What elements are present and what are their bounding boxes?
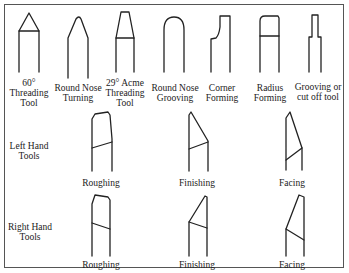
threading-60-tool-shape [19, 13, 39, 72]
row-label-left-hand-tools: Left Hand Tools [8, 141, 50, 161]
label-grooving-cutoff: Grooving or cut off tool [293, 82, 343, 102]
label-lh-facing: Facing [270, 178, 314, 188]
label-rh-roughing: Roughing [78, 260, 124, 270]
rh-finishing-tool-shape [189, 196, 207, 256]
lh-finishing-tool-shape [189, 112, 208, 171]
label-round-nose-turning: Round Nose Turning [54, 83, 102, 103]
acme-threading-tool-shape [116, 12, 134, 72]
label-radius-forming: Radius Forming [249, 83, 291, 103]
rh-roughing-tool-shape [92, 195, 110, 256]
row-label-right-hand-tools: Right Hand Tools [6, 222, 54, 242]
rh-facing-tool-shape [286, 195, 304, 256]
label-corner-forming: Corner Forming [202, 83, 242, 103]
label-threading-60: 60° Threading Tool [9, 78, 49, 108]
label-rh-facing: Facing [270, 260, 314, 270]
lh-roughing-tool-shape [92, 112, 112, 171]
label-lh-finishing: Finishing [174, 178, 220, 188]
lh-facing-tool-shape [286, 112, 302, 170]
label-acme-threading: 29° Acme Threading Tool [104, 78, 146, 108]
radius-forming-tool-shape [260, 16, 279, 72]
round-nose-turning-tool-shape [68, 17, 88, 78]
label-round-nose-grooving: Round Nose Grooving [150, 83, 200, 103]
label-lh-roughing: Roughing [78, 178, 124, 188]
round-nose-grooving-tool-shape [164, 17, 184, 72]
grooving-cutoff-tool-shape [309, 15, 321, 72]
corner-forming-tool-shape [211, 16, 230, 72]
label-rh-finishing: Finishing [174, 260, 220, 270]
